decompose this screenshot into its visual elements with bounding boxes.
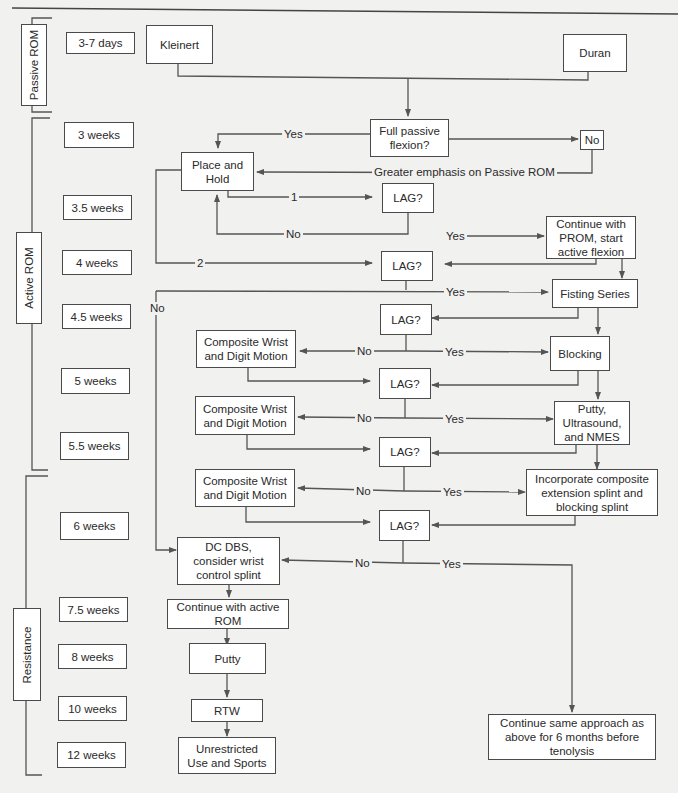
- node-continue-prom: Continue with PROM, start active flexion: [546, 216, 636, 259]
- phase-label: Active ROM: [23, 247, 35, 308]
- edge-label-2: 2: [195, 257, 205, 270]
- timeline-4-5-weeks: 4.5 weeks: [62, 304, 131, 329]
- flowchart-connectors: [0, 0, 678, 793]
- timeline-4-weeks: 4 weeks: [62, 250, 132, 275]
- edge-label-no-lag2: No: [148, 302, 167, 315]
- timeline-12-weeks: 12 weeks: [57, 742, 126, 768]
- node-lag-3: LAG?: [380, 304, 432, 335]
- timeline-5-5-weeks: 5.5 weeks: [60, 432, 129, 460]
- phase-label: Resistance: [21, 626, 33, 683]
- node-rtw: RTW: [191, 699, 263, 722]
- node-lag-1: LAG?: [382, 183, 434, 213]
- phase-label: Passive ROM: [28, 30, 40, 100]
- timeline-6-weeks: 6 weeks: [60, 512, 129, 540]
- timeline-10-weeks: 10 weeks: [58, 696, 127, 721]
- node-lag-4: LAG?: [379, 368, 431, 399]
- node-putty-ultrasound-nmes: Putty, Ultrasound, and NMES: [554, 401, 630, 445]
- timeline-5-weeks: 5 weeks: [61, 368, 130, 394]
- timeline-3-7-days: 3-7 days: [66, 32, 135, 54]
- node-continue-active-rom: Continue with active ROM: [167, 599, 289, 629]
- node-kleinert: Kleinert: [146, 25, 213, 64]
- phase-passive-rom: Passive ROM: [21, 24, 47, 106]
- node-incorporate-splint: Incorporate composite extension splint a…: [526, 469, 658, 516]
- edge-label-no-lag1: No: [284, 228, 303, 241]
- edge-label-no-lag4: No: [355, 412, 374, 425]
- timeline-3-weeks: 3 weeks: [64, 122, 134, 148]
- node-composite-2: Composite Wrist and Digit Motion: [195, 396, 295, 435]
- edge-label-no-lag6: No: [353, 557, 372, 570]
- node-place-and-hold: Place and Hold: [181, 152, 254, 191]
- node-lag-5: LAG?: [379, 437, 431, 467]
- edge-label-1: 1: [289, 191, 299, 204]
- edge-label-yes-lag1: Yes: [444, 230, 467, 243]
- node-continue-same-approach: Continue same approach as above for 6 mo…: [488, 714, 656, 760]
- edge-label-no-lag5: No: [354, 485, 373, 498]
- edge-label-yes-lag3: Yes: [443, 346, 466, 359]
- node-blocking: Blocking: [550, 336, 610, 371]
- node-full-passive-flexion: Full passive flexion?: [370, 119, 449, 157]
- phase-active-rom: Active ROM: [16, 232, 42, 324]
- node-fisting-series: Fisting Series: [552, 279, 638, 308]
- phase-resistance: Resistance: [13, 608, 41, 701]
- edge-label-yes-full-passive: Yes: [282, 128, 305, 141]
- node-putty: Putty: [189, 643, 266, 674]
- node-dc-dbs: DC DBS, consider wrist control splint: [177, 537, 280, 585]
- timeline-8-weeks: 8 weeks: [58, 644, 127, 669]
- node-composite-3: Composite Wrist and Digit Motion: [195, 469, 295, 507]
- node-unrestricted-use: Unrestricted Use and Sports: [178, 737, 276, 774]
- timeline-7-5-weeks: 7.5 weeks: [59, 597, 128, 622]
- node-composite-1: Composite Wrist and Digit Motion: [196, 330, 296, 368]
- edge-label-no-lag3: No: [355, 345, 374, 358]
- edge-label-yes-lag4: Yes: [443, 413, 466, 426]
- edge-label-yes-lag5: Yes: [441, 486, 464, 499]
- timeline-3-5-weeks: 3.5 weeks: [63, 195, 132, 220]
- edge-label-yes-lag2: Yes: [444, 286, 467, 299]
- edge-label-yes-lag6: Yes: [440, 558, 463, 571]
- node-lag-2: LAG?: [381, 251, 433, 281]
- edge-label-greater-emphasis: Greater emphasis on Passive ROM: [372, 166, 557, 179]
- node-lag-6: LAG?: [379, 510, 430, 541]
- node-no: No: [580, 130, 604, 150]
- node-duran: Duran: [563, 34, 627, 72]
